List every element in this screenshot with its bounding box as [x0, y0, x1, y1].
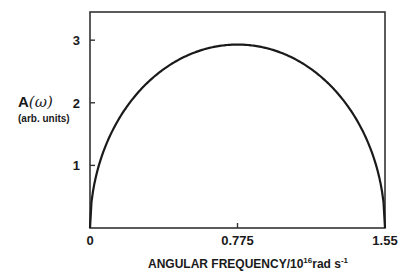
y-axis-units: (arb. units): [18, 113, 70, 124]
chart-svg: 12300.7751.55: [0, 0, 418, 271]
x-tick-label: 1.55: [372, 233, 397, 248]
y-axis-label-symbol: A: [18, 93, 29, 110]
x-axis-unit: rad s: [312, 257, 341, 271]
x-axis-label: ANGULAR FREQUENCY/1016rad s-1: [148, 256, 348, 271]
x-axis-label-text: ANGULAR FREQUENCY/10: [148, 257, 303, 271]
x-axis-unit-exponent: -1: [341, 256, 348, 265]
x-axis-exponent: 16: [303, 256, 312, 265]
y-tick-label: 2: [73, 96, 80, 111]
x-tick-label: 0: [86, 233, 93, 248]
data-curve: [90, 45, 385, 228]
y-tick-label: 3: [73, 33, 80, 48]
y-tick-label: 1: [73, 158, 80, 173]
y-axis-label: A(ω): [18, 93, 53, 111]
x-tick-label: 0.775: [221, 233, 254, 248]
y-axis-label-omega: (ω): [29, 93, 53, 111]
